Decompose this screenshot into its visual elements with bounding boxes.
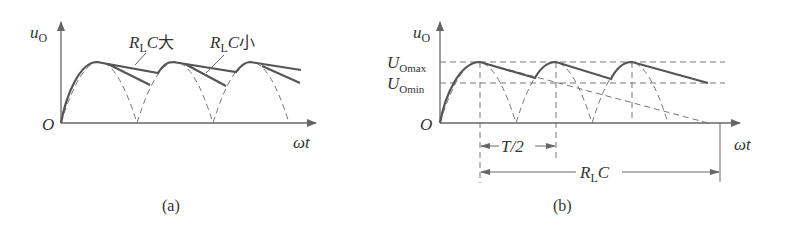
rectified-sine-dashed bbox=[440, 62, 668, 123]
waveform-rlc-large bbox=[61, 62, 301, 123]
time-constant-label: RLC bbox=[579, 163, 610, 185]
caption-a: (a) bbox=[162, 197, 180, 215]
umin-label: UOmin bbox=[387, 74, 425, 95]
x-axis-label: ωt bbox=[293, 133, 311, 152]
rectifier-filter-waveforms: uO O ωt RLC大 RLC小 (a) T/2 RLC bbox=[0, 0, 785, 227]
half-period-label: T/2 bbox=[501, 137, 524, 156]
y-axis-label: uO bbox=[30, 23, 48, 45]
rectified-sine-dashed bbox=[61, 62, 289, 123]
y-axis-label: uO bbox=[413, 23, 431, 45]
annotation-rlc-large: RLC大 bbox=[128, 33, 174, 55]
annotation-rlc-small: RLC小 bbox=[209, 33, 255, 55]
panel-a: uO O ωt RLC大 RLC小 (a) bbox=[30, 22, 316, 215]
origin-label: O bbox=[420, 115, 432, 134]
x-axis-label: ωt bbox=[734, 135, 752, 154]
caption-b: (b) bbox=[553, 197, 572, 215]
umax-label: UOmax bbox=[387, 53, 427, 74]
panel-b: T/2 RLC uO O ωt UOmax UOmin (b) bbox=[387, 22, 752, 215]
origin-label: O bbox=[42, 115, 54, 134]
